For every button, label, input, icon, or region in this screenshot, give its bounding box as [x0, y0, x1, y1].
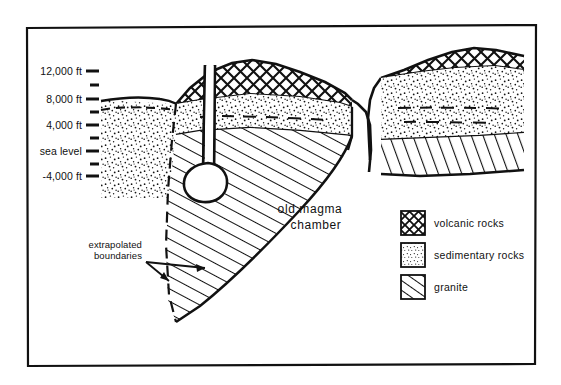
axis-tick-label-sea-level: sea level — [40, 145, 82, 157]
cross-section-figure: 12,000 ft 8,000 ft 4,000 ft sea level -4… — [0, 0, 561, 385]
legend-item-volcanic[interactable]: volcanic rocks — [401, 211, 504, 235]
figure-canvas: 12,000 ft 8,000 ft 4,000 ft sea level -4… — [0, 0, 561, 385]
sedimentary-left — [101, 98, 177, 199]
legend-swatch-sedimentary-icon — [401, 243, 425, 267]
legend-swatch-volcanic-icon — [401, 211, 425, 235]
legend: volcanic rocks sedimentary rocks granite — [401, 200, 536, 300]
legend-item-sedimentary[interactable]: sedimentary rocks — [401, 243, 524, 267]
axis-tick-label-minus-4000: -4,000 ft — [43, 170, 82, 182]
magma-blob — [184, 163, 227, 202]
axis-tick-label-4000: 4,000 ft — [46, 119, 82, 131]
magma-label-line2: chamber — [291, 218, 342, 232]
altitude-axis: 12,000 ft 8,000 ft 4,000 ft sea level -4… — [40, 65, 99, 182]
extrapolated-label-line1: extrapolated — [89, 239, 143, 250]
legend-label-volcanic: volcanic rocks — [434, 217, 504, 229]
axis-tick-label-12000: 12,000 ft — [40, 65, 82, 77]
fault-scarp — [348, 78, 381, 172]
axis-tick-label-8000: 8,000 ft — [46, 93, 82, 105]
legend-label-granite: granite — [434, 281, 468, 293]
magma-label-line1: old magma — [278, 202, 343, 216]
legend-item-granite[interactable]: granite — [401, 275, 468, 299]
legend-label-sedimentary: sedimentary rocks — [434, 249, 524, 261]
legend-swatch-granite-icon — [401, 275, 425, 299]
axis-major-ticks — [86, 71, 99, 176]
extrapolated-label-line2: boundaries — [94, 250, 142, 261]
